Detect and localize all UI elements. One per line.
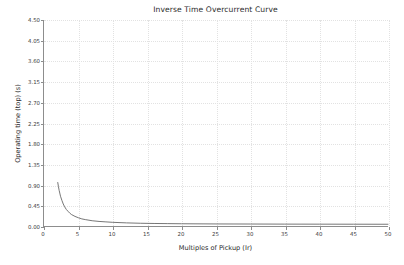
x-axis-tick-labels: 05101520253035404550 [43, 228, 388, 240]
x-tick-label: 5 [76, 231, 79, 237]
y-tick-mark [41, 103, 44, 104]
y-axis-tick-labels: 0.000.450.901.351.802.252.703.153.604.05… [0, 20, 40, 227]
y-tick-label: 0.00 [28, 224, 40, 230]
x-tick-label: 50 [385, 231, 392, 237]
y-tick-label: 0.90 [28, 183, 40, 189]
x-tick-label: 10 [109, 231, 116, 237]
y-tick-mark [41, 124, 44, 125]
y-tick-mark [41, 206, 44, 207]
x-axis-label: Multiples of Pickup (Ir) [43, 244, 388, 252]
chart-figure: Inverse Time Overcurrent Curve Operating… [0, 0, 404, 265]
y-tick-label: 4.50 [28, 17, 40, 23]
x-tick-mark [389, 227, 390, 230]
y-tick-label: 1.80 [28, 141, 40, 147]
y-tick-label: 2.25 [28, 121, 40, 127]
x-tick-label: 35 [281, 231, 288, 237]
y-tick-label: 2.70 [28, 100, 40, 106]
x-tick-label: 15 [143, 231, 150, 237]
curve-svg [44, 20, 388, 226]
x-tick-label: 40 [316, 231, 323, 237]
y-tick-label: 1.35 [28, 162, 40, 168]
x-tick-label: 45 [350, 231, 357, 237]
y-tick-mark [41, 165, 44, 166]
y-tick-label: 4.05 [28, 38, 40, 44]
plot-area [43, 20, 388, 227]
y-tick-mark [41, 20, 44, 21]
y-tick-mark [41, 82, 44, 83]
overcurrent-curve-line [58, 183, 388, 225]
x-tick-label: 0 [41, 231, 44, 237]
gridline-vertical [389, 20, 390, 226]
y-tick-mark [41, 41, 44, 42]
y-tick-label: 3.60 [28, 58, 40, 64]
x-tick-label: 30 [247, 231, 254, 237]
y-tick-label: 3.15 [28, 79, 40, 85]
x-tick-label: 20 [178, 231, 185, 237]
page-title: Inverse Time Overcurrent Curve [43, 5, 388, 14]
y-tick-mark [41, 61, 44, 62]
y-tick-mark [41, 186, 44, 187]
x-tick-label: 25 [212, 231, 219, 237]
y-tick-mark [41, 144, 44, 145]
y-tick-label: 0.45 [28, 203, 40, 209]
